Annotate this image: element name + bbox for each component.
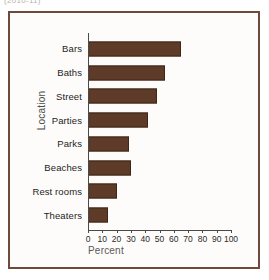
- top-caption-text: (2010-11): [4, 0, 124, 8]
- bar-category-label: Street: [10, 91, 82, 102]
- bar-row: Beaches: [10, 156, 258, 180]
- x-tick-label: 30: [126, 234, 135, 244]
- bar-category-label: Theaters: [10, 210, 82, 221]
- bar-track: [88, 85, 231, 109]
- x-tick-mark: [102, 230, 103, 233]
- bars-region: BarsBathsStreetPartiesParksBeachesRest r…: [10, 37, 258, 227]
- x-tick-label: 50: [155, 234, 164, 244]
- bar-row: Rest rooms: [10, 180, 258, 204]
- x-tick-mark: [160, 230, 161, 233]
- bar-row: Theaters: [10, 203, 258, 227]
- bar-row: Parties: [10, 108, 258, 132]
- bar-fill: [88, 136, 129, 151]
- bar-track: [88, 108, 231, 132]
- bar-fill: [88, 89, 157, 104]
- x-tick-mark: [174, 230, 175, 233]
- x-tick-mark: [145, 230, 146, 233]
- bar-fill: [88, 65, 165, 80]
- bar-row: Baths: [10, 61, 258, 85]
- bar-category-label: Rest rooms: [10, 186, 82, 197]
- bar-fill: [88, 113, 148, 128]
- bar-row: Street: [10, 85, 258, 109]
- bar-fill: [88, 160, 131, 175]
- bar-row: Parks: [10, 132, 258, 156]
- plot-area: Location BarsBathsStreetPartiesParksBeac…: [10, 13, 258, 267]
- x-tick-label: 20: [112, 234, 121, 244]
- x-tick-label: 90: [212, 234, 221, 244]
- bar-fill: [88, 208, 108, 223]
- bar-category-label: Baths: [10, 67, 82, 78]
- x-tick-mark: [217, 230, 218, 233]
- bar-category-label: Parks: [10, 138, 82, 149]
- x-tick-mark: [188, 230, 189, 233]
- chart-frame: Location BarsBathsStreetPartiesParksBeac…: [8, 11, 260, 269]
- x-tick-label: 80: [198, 234, 207, 244]
- bar-track: [88, 61, 231, 85]
- x-tick-mark: [117, 230, 118, 233]
- bar-category-label: Bars: [10, 43, 82, 54]
- bar-category-label: Parties: [10, 115, 82, 126]
- x-tick-label: 60: [169, 234, 178, 244]
- bar-fill: [88, 184, 117, 199]
- bar-track: [88, 203, 231, 227]
- x-tick-label: 70: [183, 234, 192, 244]
- bar-category-label: Beaches: [10, 162, 82, 173]
- bar-track: [88, 156, 231, 180]
- bar-row: Bars: [10, 37, 258, 61]
- x-tick-label: 40: [140, 234, 149, 244]
- x-tick-mark: [88, 230, 89, 233]
- x-tick-mark: [131, 230, 132, 233]
- bar-fill: [88, 41, 181, 56]
- bar-track: [88, 132, 231, 156]
- bar-track: [88, 37, 231, 61]
- x-axis-title: Percent: [88, 245, 124, 256]
- x-tick-mark: [231, 230, 232, 233]
- x-tick-mark: [202, 230, 203, 233]
- x-tick-label: 100: [224, 234, 238, 244]
- bar-track: [88, 180, 231, 204]
- y-axis-line: [88, 33, 89, 231]
- x-tick-label: 10: [98, 234, 107, 244]
- x-tick-label: 0: [86, 234, 91, 244]
